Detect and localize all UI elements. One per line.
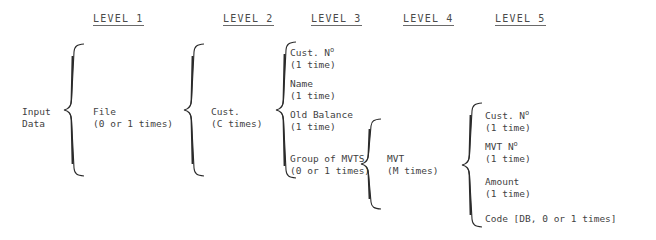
node-count: (1 time) (290, 121, 353, 133)
node-level3-cust-no: Cust. No (1 time) (290, 47, 336, 70)
root-node-input-data: Input Data (22, 106, 51, 129)
node-label: Cust. (211, 106, 262, 118)
node-count: (1 time) (485, 122, 531, 134)
node-level5-mvt-no: MVT No (1 time) (485, 141, 531, 164)
node-label: Cust. No (290, 47, 336, 59)
level-header-2: LEVEL 2 (223, 13, 274, 26)
level-header-1: LEVEL 1 (93, 13, 144, 26)
brace-level-2 (180, 42, 206, 178)
node-label: Code [DB, 0 or 1 times] (485, 213, 617, 225)
node-label: Name (290, 78, 336, 90)
node-level1-file: File (0 or 1 times) (93, 106, 173, 129)
node-label: Amount (485, 176, 531, 188)
brace-level-4 (357, 117, 383, 211)
ordinal-indicator: o (525, 109, 529, 117)
node-label: Cust. No (485, 110, 531, 122)
node-level5-code: Code [DB, 0 or 1 times] (485, 213, 617, 225)
node-label: MVT (387, 153, 438, 165)
node-count: (1 time) (485, 188, 531, 200)
node-label: Old Balance (290, 109, 353, 121)
node-label: File (93, 106, 173, 118)
brace-level-5 (458, 101, 484, 229)
node-count: (1 time) (290, 90, 336, 102)
brace-level-1 (60, 42, 86, 178)
node-level3-old-balance: Old Balance (1 time) (290, 109, 353, 132)
node-level3-name: Name (1 time) (290, 78, 336, 101)
node-level4-mvt: MVT (M times) (387, 153, 438, 176)
jackson-structure-diagram: LEVEL 1 LEVEL 2 LEVEL 3 LEVEL 4 LEVEL 5 … (0, 0, 656, 240)
node-count: (1 time) (485, 153, 531, 165)
root-label-line2: Data (22, 118, 51, 130)
node-level2-cust: Cust. (C times) (211, 106, 262, 129)
level-header-4: LEVEL 4 (403, 13, 454, 26)
node-level5-amount: Amount (1 time) (485, 176, 531, 199)
node-count: (1 time) (290, 59, 336, 71)
ordinal-indicator: o (514, 140, 518, 148)
root-label-line1: Input (22, 106, 51, 118)
node-count: (0 or 1 times) (93, 118, 173, 130)
ordinal-indicator: o (330, 46, 334, 54)
node-label: MVT No (485, 141, 531, 153)
level-header-3: LEVEL 3 (311, 13, 362, 26)
node-level5-cust-no: Cust. No (1 time) (485, 110, 531, 133)
node-count: (C times) (211, 118, 262, 130)
level-header-5: LEVEL 5 (495, 13, 546, 26)
node-count: (M times) (387, 165, 438, 177)
